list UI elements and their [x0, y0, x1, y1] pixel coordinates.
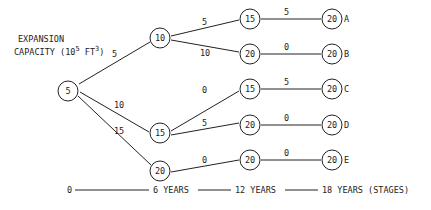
svg-text:20: 20 [245, 49, 255, 59]
edge-label-top-b: 10 [200, 48, 210, 58]
expansion-decision-tree: EXPANSION CAPACITY (105 FT3) 5 10 15 5 1… [0, 0, 431, 210]
svg-text:20: 20 [327, 120, 337, 130]
node-stage2-d: 20 [240, 115, 260, 135]
outcome-label-e: E [344, 155, 349, 165]
timeline-t2: 12 YEARS [235, 185, 276, 195]
edge-label-mid-d: 5 [202, 118, 207, 128]
svg-text:10: 10 [155, 33, 165, 43]
edge-label-bot-e: 0 [202, 155, 207, 165]
svg-text:20: 20 [327, 84, 337, 94]
outcome-label-b: B [344, 49, 349, 59]
edge-label-root-top: 5 [112, 49, 117, 59]
outcome-label-d: D [344, 120, 349, 130]
svg-text:20: 20 [245, 120, 255, 130]
timeline-axis: 0 6 YEARS 12 YEARS 18 YEARS (STAGES) [67, 185, 409, 195]
node-stage3-e: 20 E [322, 150, 349, 170]
edge-label-root-mid: 10 [114, 100, 124, 110]
title-line1: EXPANSION [18, 34, 64, 44]
edge-label-d-final: 0 [284, 113, 289, 123]
svg-text:20: 20 [327, 155, 337, 165]
node-stage2-e: 20 [240, 150, 260, 170]
node-stage3-d: 20 D [322, 115, 349, 135]
title-line2: CAPACITY (105 FT3) [14, 45, 104, 57]
svg-text:15: 15 [155, 128, 165, 138]
edge-label-top-a: 5 [202, 17, 207, 27]
node-stage1-mid: 15 [150, 123, 170, 143]
node-stage3-c: 20 C [322, 79, 349, 99]
node-stage3-b: 20 B [322, 44, 349, 64]
timeline-t0: 0 [67, 185, 72, 195]
svg-text:20: 20 [327, 49, 337, 59]
edge-label-e-final: 0 [284, 148, 289, 158]
svg-text:15: 15 [245, 84, 255, 94]
node-root: 5 [58, 81, 78, 101]
edge-label-b-final: 0 [284, 42, 289, 52]
node-stage3-a: 20 A [322, 9, 349, 29]
edge-label-c-final: 5 [284, 77, 289, 87]
node-stage1-bot: 20 [150, 161, 170, 181]
svg-text:20: 20 [327, 14, 337, 24]
svg-text:20: 20 [245, 155, 255, 165]
outcome-label-c: C [344, 84, 349, 94]
edge-label-a-final: 5 [284, 7, 289, 17]
timeline-t1: 6 YEARS [153, 185, 189, 195]
node-stage2-b: 20 [240, 44, 260, 64]
svg-text:15: 15 [245, 14, 255, 24]
outcome-label-a: A [344, 14, 349, 24]
svg-text:5: 5 [65, 86, 70, 96]
node-stage2-c: 15 [240, 79, 260, 99]
timeline-t3: 18 YEARS (STAGES) [322, 185, 409, 195]
node-stage2-a: 15 [240, 9, 260, 29]
edge-label-root-bot: 15 [114, 126, 124, 136]
edge-label-mid-c: 0 [202, 85, 207, 95]
node-stage1-top: 10 [150, 28, 170, 48]
svg-text:20: 20 [155, 166, 165, 176]
